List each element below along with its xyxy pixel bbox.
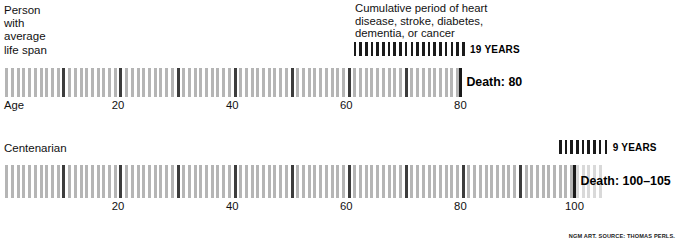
year-tick [91, 68, 94, 97]
year-tick [62, 68, 65, 97]
year-tick [485, 165, 488, 198]
year-tick [268, 165, 271, 198]
year-tick [62, 165, 65, 198]
axis-tick-label: 80 [454, 200, 467, 212]
year-tick [268, 68, 271, 97]
disease-years-label-average-person: 19 YEARS [470, 44, 520, 55]
year-tick [405, 165, 408, 198]
year-tick [428, 165, 431, 198]
year-tick [433, 165, 436, 198]
year-tick [336, 165, 339, 198]
year-tick [91, 165, 94, 198]
year-tick [142, 165, 145, 198]
year-tick [388, 42, 391, 56]
year-tick [308, 165, 311, 198]
year-tick [251, 68, 254, 97]
year-tick [416, 42, 419, 56]
year-tick [108, 68, 111, 97]
year-tick [11, 68, 14, 97]
year-tick [302, 68, 305, 97]
year-tick [348, 165, 351, 198]
year-tick [376, 42, 379, 56]
year-tick [296, 68, 299, 97]
year-tick [473, 165, 476, 198]
year-tick [256, 165, 259, 198]
axis-tick-label: 40 [226, 99, 239, 111]
year-tick [216, 68, 219, 97]
year-tick [228, 68, 231, 97]
disease-period-bar-average-person [0, 42, 677, 56]
year-tick [313, 165, 316, 198]
year-tick [114, 165, 117, 198]
year-tick [479, 165, 482, 198]
year-tick [148, 68, 151, 97]
year-tick [194, 68, 197, 97]
year-tick [177, 165, 180, 198]
year-tick [416, 165, 419, 198]
year-tick [34, 165, 37, 198]
year-tick [388, 68, 391, 97]
year-tick [28, 165, 31, 198]
year-tick [34, 68, 37, 97]
death-label-centenarian: Death: 100–105 [581, 174, 671, 188]
year-tick [605, 140, 608, 154]
year-tick [131, 68, 134, 97]
year-tick [97, 165, 100, 198]
year-tick [376, 68, 379, 97]
year-tick [490, 165, 493, 198]
year-tick [365, 165, 368, 198]
year-tick [422, 165, 425, 198]
year-tick [182, 68, 185, 97]
year-tick [279, 68, 282, 97]
year-tick [445, 165, 448, 198]
year-tick [57, 68, 60, 97]
year-tick [188, 68, 191, 97]
year-tick [399, 42, 402, 56]
axis-tick-label: 80 [454, 99, 467, 111]
year-tick [354, 42, 357, 56]
year-tick [245, 68, 248, 97]
infographic-canvas: Person with average life span Cumulative… [0, 0, 677, 240]
year-tick [262, 68, 265, 97]
age-axis-centenarian: 20406080100 [0, 200, 677, 216]
year-tick [359, 165, 362, 198]
year-tick [85, 165, 88, 198]
axis-tick-label: 20 [112, 99, 125, 111]
year-tick [405, 42, 408, 56]
year-tick [22, 68, 25, 97]
year-tick [507, 165, 510, 198]
year-tick [211, 68, 214, 97]
year-tick [188, 165, 191, 198]
year-tick [382, 68, 385, 97]
year-tick [439, 165, 442, 198]
year-tick [382, 42, 385, 56]
year-tick [359, 42, 362, 56]
year-tick [553, 165, 556, 198]
year-tick [171, 68, 174, 97]
year-tick [194, 165, 197, 198]
year-tick [525, 165, 528, 198]
year-tick [496, 165, 499, 198]
year-tick [456, 42, 459, 56]
year-tick [165, 68, 168, 97]
year-tick [291, 165, 294, 198]
year-tick [467, 165, 470, 198]
year-tick [211, 165, 214, 198]
year-tick [445, 42, 448, 56]
year-tick [462, 165, 465, 198]
year-tick [450, 165, 453, 198]
year-tick [11, 165, 14, 198]
year-tick [405, 68, 408, 97]
year-tick [376, 165, 379, 198]
year-tick [587, 140, 590, 154]
year-tick [559, 140, 562, 154]
year-tick [530, 165, 533, 198]
year-tick [5, 68, 8, 97]
year-tick [142, 68, 145, 97]
year-tick [416, 68, 419, 97]
year-tick [228, 165, 231, 198]
year-tick [285, 165, 288, 198]
year-tick [559, 165, 562, 198]
year-tick [45, 68, 48, 97]
year-tick [393, 68, 396, 97]
